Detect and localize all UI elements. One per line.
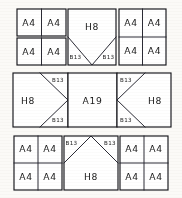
- block-label-h8: H8: [148, 95, 162, 106]
- cell-label-a4: A4: [124, 17, 137, 28]
- block-top-right: A4 A4 A4 A4: [119, 9, 166, 65]
- block-label-h8: H8: [21, 95, 35, 106]
- block-middle-right: H8 B13 B13: [117, 73, 171, 127]
- cell-label-a4: A4: [125, 171, 138, 182]
- corner-label-b13: B13: [120, 77, 132, 83]
- cell-label-a4: A4: [43, 143, 56, 154]
- block-middle-left: H8 B13 B13: [13, 73, 68, 127]
- block-middle-center: A19: [68, 73, 117, 127]
- corner-label-b13: B13: [52, 77, 64, 83]
- cell-label-a4: A4: [47, 46, 60, 57]
- block-bottom-right: A4 A4 A4 A4: [120, 136, 168, 190]
- cell-label-a4: A4: [22, 46, 35, 57]
- block-label-h8: H8: [84, 171, 98, 182]
- cell-label-a4: A4: [125, 143, 138, 154]
- block-top-center: H8 B13 B13: [68, 9, 116, 65]
- cell-label-a4: A4: [149, 171, 162, 182]
- cell-label-a4: A4: [19, 171, 32, 182]
- cell-label-a4: A4: [22, 17, 35, 28]
- block-label-h8: H8: [85, 21, 99, 32]
- cell-label-a4: A4: [148, 17, 161, 28]
- diagram-canvas: A4 A4 A4 A4 H8 B13 B13 A4 A4 A4 A4: [0, 0, 182, 198]
- block-top-left: A4 A4 A4 A4: [17, 9, 66, 65]
- cell-label-a4: A4: [47, 17, 60, 28]
- panel-layout-diagram: A4 A4 A4 A4 H8 B13 B13 A4 A4 A4 A4: [0, 0, 182, 198]
- cell-label-a4: A4: [148, 45, 161, 56]
- corner-label-b13: B13: [120, 117, 132, 123]
- cell-label-a4: A4: [149, 143, 162, 154]
- block-bottom-left: A4 A4 A4 A4: [14, 136, 62, 190]
- corner-label-b13: B13: [104, 140, 116, 146]
- cell-label-a4: A4: [124, 45, 137, 56]
- corner-label-b13: B13: [66, 140, 78, 146]
- cell-label-a4: A4: [43, 171, 56, 182]
- cell-label-a4: A4: [19, 143, 32, 154]
- corner-label-b13: B13: [52, 117, 64, 123]
- corner-label-b13: B13: [103, 54, 115, 60]
- block-label-a19: A19: [83, 95, 103, 106]
- block-bottom-center: H8 B13 B13: [64, 136, 118, 190]
- corner-label-b13: B13: [70, 54, 82, 60]
